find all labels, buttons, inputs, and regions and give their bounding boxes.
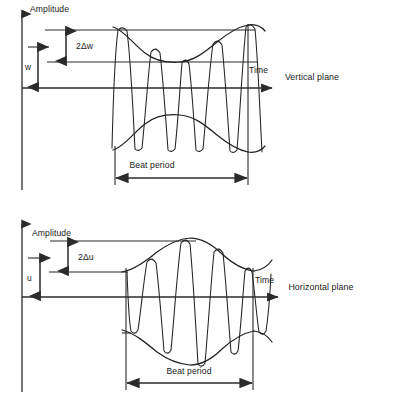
beat-period-label-vertical-panel: Beat period (129, 160, 174, 170)
delta-u-label: 2Δu (78, 252, 94, 262)
panel-vertical-plane: Amplitude Time 2Δw w Beat period Vertica… (22, 4, 339, 190)
w-label: w (24, 62, 32, 72)
amplitude-label-horizontal-panel: Amplitude (32, 228, 71, 238)
upper-envelope-vertical-panel (113, 25, 248, 62)
figure-root: Amplitude Time 2Δw w Beat period Vertica… (0, 0, 393, 404)
amplitude-label-vertical-panel: Amplitude (30, 4, 69, 14)
u-label: u (27, 273, 32, 283)
beat-period-label-horizontal-panel: Beat period (166, 366, 211, 376)
horizontal-plane-label: Horizontal plane (288, 282, 353, 292)
time-label-horizontal-panel: Time (255, 275, 274, 285)
panel-horizontal-plane: Amplitude Time 2Δu u Beat period Horizon… (22, 224, 354, 392)
time-label-vertical-panel: Time (249, 65, 268, 75)
upper-envelope-tail-horizontal-panel (254, 260, 272, 271)
beat-period-diagram: Amplitude Time 2Δw w Beat period Vertica… (0, 0, 393, 404)
delta-w-label: 2Δw (76, 41, 94, 51)
vertical-plane-label: Vertical plane (285, 72, 339, 82)
lower-envelope-horizontal-panel (122, 330, 254, 365)
lower-envelope-tail-horizontal-panel (254, 331, 272, 342)
upper-envelope-horizontal-panel (122, 238, 254, 272)
